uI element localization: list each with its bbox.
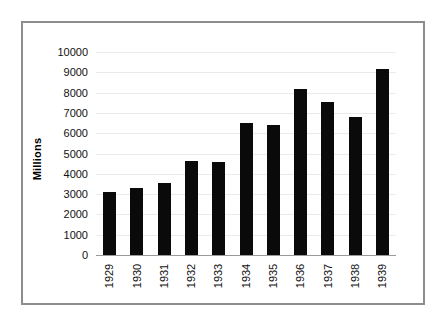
- gridline: [96, 93, 396, 94]
- gridline: [96, 72, 396, 73]
- bar: [267, 125, 280, 255]
- y-axis-title: Millions: [30, 119, 44, 199]
- y-axis-tick-label: 6000: [64, 125, 88, 141]
- x-axis-tick-label-text: 1932: [185, 264, 197, 288]
- bar: [130, 188, 143, 255]
- x-axis-tick-label: 1932: [184, 256, 198, 300]
- x-axis-tick-label: 1936: [294, 256, 308, 300]
- gridline: [96, 52, 396, 53]
- y-axis-title-label: Millions: [31, 138, 43, 181]
- bar: [103, 192, 116, 255]
- chart-container: Millions 1000090008000700060005000400030…: [0, 0, 442, 327]
- y-axis-tick-label: 0: [82, 247, 88, 263]
- x-axis-tick-label: 1935: [266, 256, 280, 300]
- x-axis-tick-label: 1929: [103, 256, 117, 300]
- y-axis-tick-label: 10000: [57, 44, 88, 60]
- x-axis-tick-label: 1931: [157, 256, 171, 300]
- x-axis-tick-label: 1937: [321, 256, 335, 300]
- y-axis-tick-label: 1000: [64, 227, 88, 243]
- y-axis-tick-label: 7000: [64, 105, 88, 121]
- x-axis-tick-labels: 1929193019311932193319341935193619371938…: [96, 256, 396, 302]
- bar: [376, 69, 389, 255]
- bar: [349, 117, 362, 255]
- bar: [185, 161, 198, 255]
- bar: [294, 89, 307, 255]
- x-axis-tick-label: 1930: [130, 256, 144, 300]
- bar: [158, 183, 171, 255]
- x-axis-tick-label-text: 1931: [158, 264, 170, 288]
- bar: [240, 123, 253, 255]
- y-axis-tick-label: 3000: [64, 186, 88, 202]
- x-axis-tick-label: 1938: [348, 256, 362, 300]
- x-axis-tick-label-text: 1937: [322, 264, 334, 288]
- x-axis-tick-label-text: 1935: [267, 264, 279, 288]
- x-axis-tick-label-text: 1936: [295, 264, 307, 288]
- x-axis-tick-label-text: 1929: [104, 264, 116, 288]
- x-axis-tick-label: 1934: [239, 256, 253, 300]
- x-axis-tick-label-text: 1938: [349, 264, 361, 288]
- y-axis-tick-labels: 1000090008000700060005000400030002000100…: [44, 44, 92, 263]
- y-axis-tick-label: 8000: [64, 85, 88, 101]
- y-axis-tick-label: 2000: [64, 206, 88, 222]
- y-axis-tick-label: 4000: [64, 166, 88, 182]
- bar: [212, 162, 225, 255]
- x-axis-tick-label-text: 1933: [213, 264, 225, 288]
- x-axis-tick-label: 1939: [375, 256, 389, 300]
- x-axis-tick-label-text: 1934: [240, 264, 252, 288]
- gridline: [96, 113, 396, 114]
- bar: [321, 102, 334, 255]
- y-axis-tick-label: 9000: [64, 64, 88, 80]
- x-axis-tick-label-text: 1930: [131, 264, 143, 288]
- x-axis-tick-label: 1933: [212, 256, 226, 300]
- y-axis-tick-label: 5000: [64, 146, 88, 162]
- x-axis-tick-label-text: 1939: [376, 264, 388, 288]
- plot-area: [96, 52, 396, 256]
